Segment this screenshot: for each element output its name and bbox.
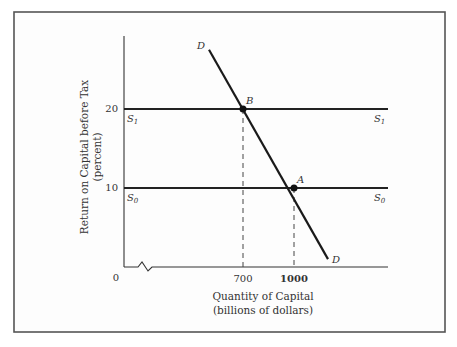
y-tick-label-10: 10: [105, 182, 118, 193]
y-axis-label: Return on Capital before Tax: [78, 80, 90, 234]
chart: S1S1S0S0DDBA 0 10 20 700 1000 Quantity o…: [0, 0, 457, 347]
series-label-subscript: 1: [134, 118, 138, 126]
point-B: [240, 106, 247, 113]
x-tick-label-1000: 1000: [280, 273, 308, 284]
y-axis-sublabel: (percent): [91, 132, 103, 181]
point-label-A: A: [296, 174, 304, 185]
origin-label: 0: [113, 272, 119, 283]
x-tick-label-700: 700: [233, 273, 252, 284]
demand-label-bottom: D: [331, 254, 340, 265]
x-axis-sublabel: (billions of dollars): [213, 304, 313, 316]
point-A: [291, 185, 298, 192]
point-label-B: B: [245, 95, 253, 106]
series-label-subscript: 1: [381, 118, 385, 126]
x-axis-label: Quantity of Capital: [212, 290, 314, 302]
demand-label-top: D: [196, 40, 205, 51]
y-tick-label-20: 20: [105, 103, 118, 114]
series-label-subscript: 0: [134, 197, 139, 205]
series-label-subscript: 0: [381, 197, 386, 205]
